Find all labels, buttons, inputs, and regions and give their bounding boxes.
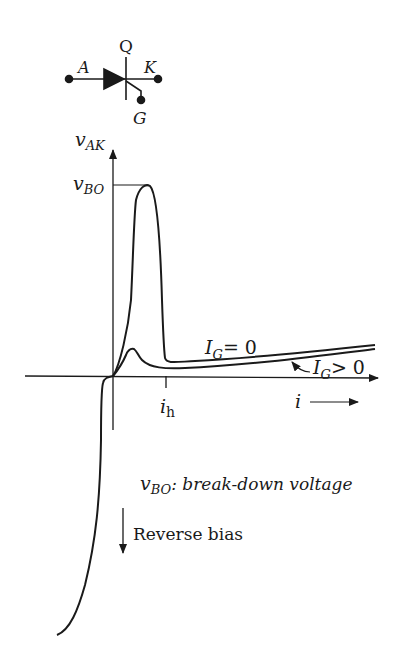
reverse-bias-label: Reverse bias [133,524,243,544]
anode-label: A [76,58,90,77]
gate-label: G [133,108,147,128]
y-axis-label: vAK [75,128,106,153]
symbol-label-q: Q [119,36,133,56]
vbo-label: vBO [73,172,105,197]
ig-positive-pointer [292,362,310,372]
ih-label: ih [160,395,175,420]
curve-reverse-bias [57,376,113,635]
x-axis-label: i [295,390,301,412]
vbo-definition: vBO: break-down voltage [140,472,352,497]
thyristor-diagram: Q A K G vAK vBO ih IG= 0 IG> 0 i vBO: br… [0,0,395,663]
gate-terminal-icon [138,97,145,104]
diode-triangle-icon [104,69,124,89]
cathode-label: K [143,58,157,77]
